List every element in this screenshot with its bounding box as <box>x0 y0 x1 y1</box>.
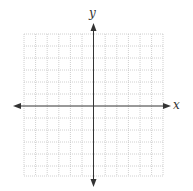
down-arrow-icon <box>91 179 97 187</box>
right-arrow-icon <box>163 103 171 109</box>
x-axis <box>13 103 171 109</box>
left-arrow-icon <box>13 103 21 109</box>
up-arrow-icon <box>91 23 97 31</box>
coordinate-plane <box>0 0 193 191</box>
y-axis <box>91 23 97 187</box>
x-axis-label: x <box>173 99 180 111</box>
y-axis-label: y <box>89 7 96 19</box>
